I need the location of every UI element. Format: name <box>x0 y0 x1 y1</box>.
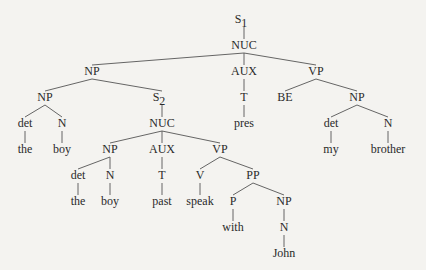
tree-node-aux2: AUX <box>149 142 175 156</box>
tree-node-vp2: VP <box>212 142 228 156</box>
tree-node-det2: det <box>71 168 86 182</box>
tree-edge-nuc1-np1 <box>92 53 244 65</box>
tree-node-vp1: VP <box>308 64 324 78</box>
tree-node-np2: NP <box>37 90 53 104</box>
tree-node-n3: N <box>384 116 393 130</box>
tree-node-n1: N <box>58 116 67 130</box>
tree-node-np5: NP <box>276 194 292 208</box>
tree-node-det3: det <box>324 116 339 130</box>
tree-edge-np1-s2 <box>92 79 162 91</box>
tree-node-brother: brother <box>371 142 406 156</box>
tree-node-p: P <box>230 194 237 208</box>
tree-node-speak: speak <box>186 194 213 208</box>
tree-node-nuc1: NUC <box>231 38 256 52</box>
tree-node-np4: NP <box>102 142 118 156</box>
tree-node-the1: the <box>18 142 33 156</box>
tree-node-np1: NP <box>84 64 100 78</box>
tree-node-boy2: boy <box>101 194 119 208</box>
tree-node-nuc2: NUC <box>149 116 174 130</box>
tree-node-t2: T <box>158 168 166 182</box>
tree-node-boy1: boy <box>53 142 71 156</box>
tree-edges <box>25 27 388 247</box>
tree-node-n2: N <box>106 168 115 182</box>
tree-node-v: V <box>196 168 205 182</box>
tree-node-my: my <box>323 142 338 156</box>
tree-node-pres: pres <box>234 116 254 130</box>
tree-node-pp: PP <box>246 168 260 182</box>
tree-node-n4: N <box>280 220 289 234</box>
tree-node-with: with <box>222 220 243 234</box>
tree-node-subscript: 1 <box>241 16 247 30</box>
tree-nodes: S1NUCNPAUXVPNPS2TBENPdetNNUCpresdetNtheb… <box>18 12 406 260</box>
tree-node-s2: S2 <box>153 90 166 108</box>
tree-node-s1: S1 <box>235 12 248 30</box>
tree-node-past: past <box>152 194 172 208</box>
tree-node-the2: the <box>71 194 86 208</box>
tree-node-np3: NP <box>349 90 365 104</box>
tree-node-aux1: AUX <box>231 64 257 78</box>
tree-node-det1: det <box>18 116 33 130</box>
tree-node-subscript: 2 <box>159 94 165 108</box>
syntax-tree: S1NUCNPAUXVPNPS2TBENPdetNNUCpresdetNtheb… <box>0 0 426 270</box>
tree-node-be: BE <box>277 90 292 104</box>
tree-node-john: John <box>273 246 296 260</box>
tree-node-t1: T <box>240 90 248 104</box>
